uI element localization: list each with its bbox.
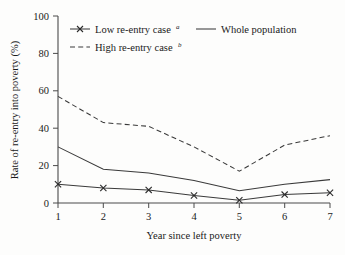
legend-label-high-re-entry: High re-entry case xyxy=(95,42,173,53)
x-axis-title: Year since left poverty xyxy=(147,230,243,241)
y-tick-label: 20 xyxy=(39,160,50,171)
y-axis-title: Rate of re-entry into poverty (%) xyxy=(9,40,21,179)
x-tick-label: 7 xyxy=(327,211,332,222)
y-axis-tick-labels: 0 20 40 60 80 100 xyxy=(33,11,49,209)
legend-marker-low-re-entry xyxy=(70,26,90,32)
x-tick-label: 5 xyxy=(237,211,242,222)
series-line-low-re-entry xyxy=(58,184,330,200)
legend-sup-high-re-entry: b xyxy=(178,41,182,49)
series-line-whole-population xyxy=(58,147,330,191)
y-tick-label: 100 xyxy=(33,11,49,22)
y-tick-label: 60 xyxy=(39,85,50,96)
legend-label-low-re-entry: Low re-entry case xyxy=(95,24,171,35)
series-line-high-re-entry xyxy=(58,96,330,171)
legend-sup-low-re-entry: a xyxy=(176,23,180,31)
legend-label-whole-population: Whole population xyxy=(221,24,297,35)
legend: Low re-entry case a Whole population Hig… xyxy=(70,23,297,53)
x-axis-tick-labels: 1 2 3 4 5 6 7 xyxy=(55,211,332,222)
x-tick-label: 3 xyxy=(146,211,151,222)
x-tick-label: 6 xyxy=(282,211,287,222)
y-tick-label: 40 xyxy=(39,123,50,134)
x-tick-label: 1 xyxy=(55,211,60,222)
x-tick-label: 4 xyxy=(191,211,197,222)
y-tick-label: 0 xyxy=(44,198,49,209)
y-axis-ticks xyxy=(53,16,58,203)
line-chart: 0 20 40 60 80 100 1 2 3 4 5 6 7 Year s xyxy=(0,0,345,255)
series-markers-low-re-entry xyxy=(55,181,333,203)
x-tick-label: 2 xyxy=(101,211,106,222)
figure-container: 0 20 40 60 80 100 1 2 3 4 5 6 7 Year s xyxy=(0,0,345,255)
y-tick-label: 80 xyxy=(39,48,50,59)
x-axis-ticks xyxy=(58,203,330,208)
